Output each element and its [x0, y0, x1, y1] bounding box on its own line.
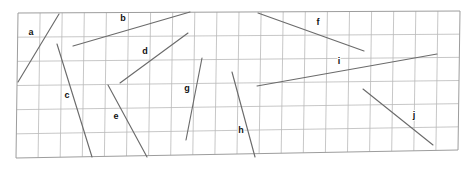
segment-labels: abdcegfihj	[28, 13, 415, 135]
segment-label-g: g	[184, 83, 190, 93]
segment-label-j: j	[412, 110, 416, 120]
segment-label-d: d	[142, 46, 148, 56]
segment-label-a: a	[28, 27, 34, 37]
segment-label-c: c	[64, 90, 69, 100]
line-segment-figure: abdcegfihj	[0, 0, 467, 169]
segment-label-h: h	[238, 125, 244, 135]
segment-j	[363, 89, 433, 145]
segment-d	[120, 33, 188, 83]
segment-h	[232, 72, 255, 157]
segment-label-e: e	[113, 111, 118, 121]
segment-f	[258, 13, 364, 51]
figure-canvas: abdcegfihj	[0, 0, 467, 169]
segment-a	[18, 14, 59, 82]
grid	[16, 11, 459, 158]
segment-label-i: i	[338, 56, 341, 66]
segment-label-b: b	[120, 13, 126, 23]
segment-label-f: f	[317, 17, 321, 27]
